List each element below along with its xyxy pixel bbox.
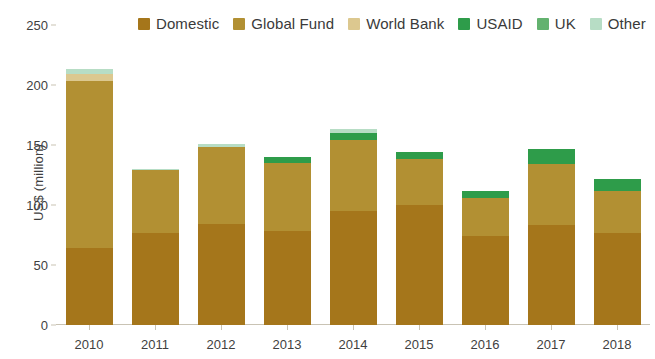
x-axis-tick-mark: [221, 325, 222, 330]
bar-segment-usaid: [330, 133, 377, 140]
bar-segment-usaid: [528, 149, 575, 165]
x-axis-tick-mark: [551, 325, 552, 330]
bar-2015[interactable]: [396, 152, 443, 325]
y-axis-tick-mark: [51, 145, 56, 146]
x-axis-tick-mark: [287, 325, 288, 330]
bar-segment-domestic: [462, 236, 509, 325]
x-axis-label-2015: 2015: [405, 337, 434, 352]
x-axis-label-2017: 2017: [537, 337, 566, 352]
bar-2018[interactable]: [594, 179, 641, 325]
bar-segment-usaid: [462, 191, 509, 198]
x-axis-tick-mark: [617, 325, 618, 330]
x-axis-tick-mark: [485, 325, 486, 330]
y-axis-tick-label: 100: [26, 198, 48, 213]
bar-segment-usaid: [396, 152, 443, 159]
bar-segment-domestic: [132, 233, 179, 325]
bar-segment-global-fund: [66, 81, 113, 248]
bar-segment-global-fund: [594, 191, 641, 233]
x-axis-label-2016: 2016: [471, 337, 500, 352]
bar-segment-domestic: [330, 211, 377, 325]
x-axis-tick-mark: [89, 325, 90, 330]
bar-segment-global-fund: [198, 147, 245, 224]
bar-2010[interactable]: [66, 69, 113, 325]
bar-segment-global-fund: [330, 140, 377, 211]
bar-segment-usaid: [594, 179, 641, 191]
bar-2012[interactable]: [198, 144, 245, 325]
x-axis-tick-mark: [353, 325, 354, 330]
bar-2014[interactable]: [330, 129, 377, 325]
x-axis-label-2013: 2013: [273, 337, 302, 352]
bar-2017[interactable]: [528, 149, 575, 325]
bar-segment-domestic: [396, 205, 443, 325]
bar-segment-global-fund: [462, 198, 509, 236]
bar-segment-domestic: [66, 248, 113, 325]
bar-2013[interactable]: [264, 157, 311, 325]
plot-area: 0501001502002502010201120122013201420152…: [56, 25, 650, 325]
y-axis-tick-mark: [51, 85, 56, 86]
x-axis-tick-mark: [419, 325, 420, 330]
bar-segment-domestic: [198, 224, 245, 325]
bar-2016[interactable]: [462, 191, 509, 325]
x-axis-label-2018: 2018: [603, 337, 632, 352]
y-axis-tick-label: 0: [41, 318, 48, 333]
y-axis-tick-mark: [51, 265, 56, 266]
y-axis-tick-label: 50: [34, 258, 48, 273]
bar-segment-global-fund: [528, 164, 575, 225]
bar-segment-domestic: [528, 225, 575, 325]
y-axis-tick-label: 200: [26, 78, 48, 93]
bar-segment-global-fund: [396, 159, 443, 205]
bar-segment-domestic: [264, 231, 311, 325]
bar-segment-domestic: [594, 233, 641, 325]
y-axis-tick-mark: [51, 325, 56, 326]
x-axis-label-2014: 2014: [339, 337, 368, 352]
x-axis-label-2010: 2010: [75, 337, 104, 352]
y-axis-tick-mark: [51, 205, 56, 206]
x-axis-tick-mark: [155, 325, 156, 330]
stacked-bar-chart: DomesticGlobal FundWorld BankUSAIDUKOthe…: [0, 0, 655, 359]
bar-segment-global-fund: [264, 163, 311, 231]
bar-segment-world-bank: [66, 74, 113, 81]
bar-segment-global-fund: [132, 170, 179, 232]
y-axis-tick-label: 150: [26, 138, 48, 153]
x-axis-label-2012: 2012: [207, 337, 236, 352]
bar-2011[interactable]: [132, 169, 179, 325]
y-axis-tick-mark: [51, 25, 56, 26]
y-axis-tick-label: 250: [26, 18, 48, 33]
x-axis-label-2011: 2011: [141, 337, 169, 352]
